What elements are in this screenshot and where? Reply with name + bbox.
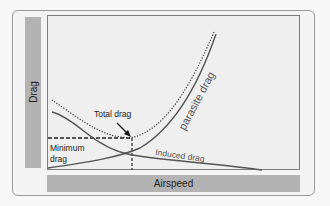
total-drag-label: Total drag xyxy=(94,109,131,119)
x-axis-bar: Airspeed xyxy=(47,175,300,192)
x-axis-label: Airspeed xyxy=(47,175,300,192)
parasite-drag-label: parasite drag xyxy=(176,70,217,132)
induced-drag-curve xyxy=(52,112,262,170)
minimum-drag-label-line1: Minimum xyxy=(50,143,84,153)
minimum-drag-label-line2: drag xyxy=(50,154,67,164)
